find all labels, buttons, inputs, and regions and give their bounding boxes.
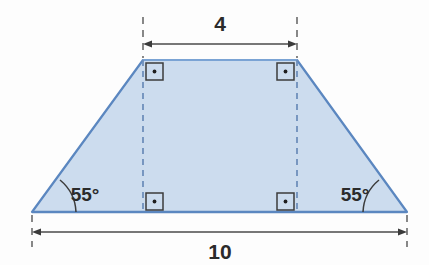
- bottom-dim-right-arrowhead: [398, 229, 407, 236]
- trapezoid-diagram-svg: 55° 55° 4 10: [0, 0, 429, 265]
- bottom-left-angle-label: 55°: [71, 184, 100, 205]
- top-dimension-label: 4: [214, 12, 226, 35]
- bottom-right-angle-label: 55°: [341, 184, 370, 205]
- bottom-dimension-label: 10: [208, 240, 231, 263]
- top-dim-right-arrowhead: [288, 41, 297, 48]
- geometry-figure: 55° 55° 4 10: [0, 0, 429, 265]
- top-dim-left-arrowhead: [143, 41, 152, 48]
- bottom-dim-left-arrowhead: [32, 229, 41, 236]
